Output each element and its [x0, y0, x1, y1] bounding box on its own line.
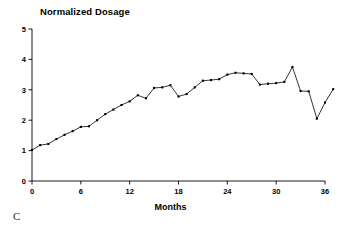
data-point-marker	[251, 73, 253, 75]
data-point-marker	[96, 119, 98, 121]
y-axis-tick-label: 2	[22, 116, 26, 125]
x-axis-tick-label: 36	[321, 187, 329, 196]
x-axis-label: Months	[0, 202, 341, 212]
data-point-marker	[72, 130, 74, 132]
data-point-marker	[316, 118, 318, 120]
y-axis-tick-label: 4	[22, 55, 27, 64]
x-axis-tick-label: 24	[223, 187, 232, 196]
y-axis-tick-label: 3	[22, 86, 26, 95]
figure-panel: 012345 061218243036 Normalized Dosage Mo…	[0, 0, 341, 235]
data-point-marker	[120, 104, 122, 106]
data-point-marker	[259, 84, 261, 86]
data-point-marker	[55, 138, 57, 140]
data-point-marker	[47, 143, 49, 145]
data-point-marker	[283, 81, 285, 83]
data-point-marker	[177, 95, 179, 97]
data-point-marker	[267, 83, 269, 85]
data-point-marker	[137, 94, 139, 96]
chart-plot-area: 012345 061218243036	[0, 0, 341, 235]
data-point-marker	[145, 97, 147, 99]
data-point-marker	[243, 72, 245, 74]
data-point-marker	[194, 86, 196, 88]
y-axis-tick-label: 1	[22, 146, 26, 155]
data-point-marker	[202, 80, 204, 82]
data-point-marker	[226, 74, 228, 76]
data-point-marker	[31, 149, 33, 151]
data-point-marker	[112, 109, 114, 111]
data-point-marker	[218, 78, 220, 80]
data-point-marker	[64, 134, 66, 136]
y-axis-tick-label: 0	[22, 177, 26, 186]
data-point-marker	[104, 113, 106, 115]
x-axis-tick-label: 6	[79, 187, 83, 196]
x-axis-tick-label: 12	[125, 187, 133, 196]
chart-title: Normalized Dosage	[40, 6, 130, 17]
x-axis-tick-label: 18	[174, 187, 182, 196]
data-series-normalized-dosage	[31, 66, 334, 151]
data-point-marker	[234, 72, 236, 74]
data-point-marker	[308, 90, 310, 92]
y-axis-tick-label: 5	[22, 25, 26, 34]
data-point-marker	[161, 86, 163, 88]
data-line	[32, 67, 333, 150]
data-point-marker	[291, 66, 293, 68]
x-axis-tick-label: 0	[30, 187, 34, 196]
data-point-marker	[88, 125, 90, 127]
x-axis: 061218243036	[30, 181, 329, 196]
data-point-marker	[186, 93, 188, 95]
y-axis: 012345	[22, 25, 32, 186]
data-point-marker	[275, 82, 277, 84]
data-point-marker	[153, 87, 155, 89]
data-point-marker	[324, 102, 326, 104]
data-point-marker	[129, 100, 131, 102]
data-point-marker	[80, 126, 82, 128]
x-axis-tick-label: 30	[272, 187, 280, 196]
data-point-marker	[210, 79, 212, 81]
data-point-marker	[300, 90, 302, 92]
data-point-marker	[169, 84, 171, 86]
panel-caption: C	[13, 210, 20, 222]
data-point-marker	[332, 88, 334, 90]
data-point-marker	[39, 144, 41, 146]
